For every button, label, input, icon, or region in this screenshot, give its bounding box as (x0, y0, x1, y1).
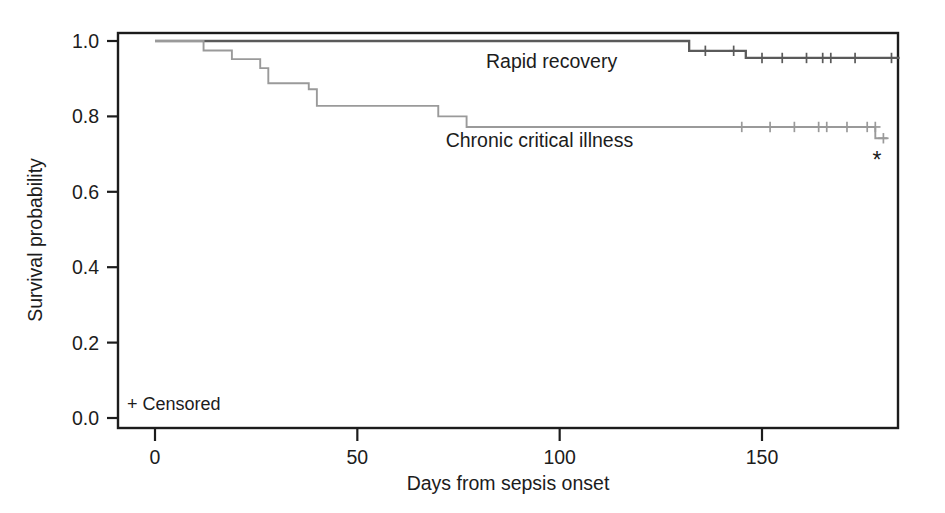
y-axis-ticks (107, 41, 118, 418)
censor-tick (789, 122, 799, 132)
kaplan-meier-figure: 0.00.20.40.60.81.0 050100150 Rapid recov… (0, 0, 945, 513)
censor-tick (757, 53, 767, 63)
censor-tick (765, 122, 775, 132)
y-tick-label: 0.0 (72, 407, 99, 429)
censor-tick (878, 133, 888, 143)
censor-tick (801, 53, 811, 63)
x-tick-label: 50 (346, 446, 368, 468)
y-axis-title: Survival probability (24, 158, 46, 322)
y-tick-label: 1.0 (72, 30, 99, 52)
censor-tick (777, 53, 787, 63)
censor-tick (870, 122, 880, 132)
y-tick-label: 0.2 (72, 332, 99, 354)
asterisk-annotation: * (873, 147, 882, 173)
x-axis-tick-labels: 050100150 (150, 446, 779, 468)
censor-tick (842, 122, 852, 132)
plot-frame (118, 33, 898, 428)
y-axis-tick-labels: 0.00.20.40.60.81.0 (72, 30, 99, 429)
x-tick-label: 0 (150, 446, 161, 468)
survival-plot: 0.00.20.40.60.81.0 050100150 Rapid recov… (0, 0, 945, 513)
censor-tick (728, 46, 738, 56)
x-axis-ticks (155, 428, 762, 441)
x-axis-title: Days from sepsis onset (407, 472, 610, 494)
series-inline-labels: Rapid recoveryChronic critical illness (446, 50, 634, 151)
censored-marks (700, 46, 897, 144)
censor-tick (700, 46, 710, 56)
series-label-0: Rapid recovery (486, 50, 617, 72)
y-tick-label: 0.4 (72, 256, 99, 278)
censor-tick (886, 53, 896, 63)
censor-tick (850, 53, 860, 63)
x-tick-label: 100 (543, 446, 576, 468)
censor-tick (822, 122, 832, 132)
series-label-1: Chronic critical illness (446, 129, 634, 151)
censored-legend-label: + Censored (127, 394, 221, 414)
censor-tick (737, 122, 747, 132)
y-tick-label: 0.8 (72, 105, 99, 127)
censor-tick (826, 53, 836, 63)
x-tick-label: 150 (746, 446, 779, 468)
y-tick-label: 0.6 (72, 181, 99, 203)
